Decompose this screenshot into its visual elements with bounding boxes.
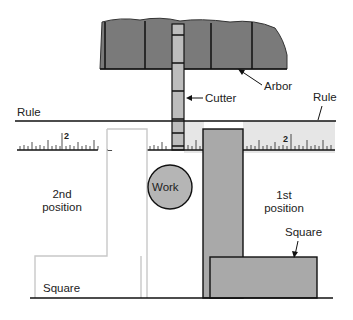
arbor-label: Arbor — [264, 80, 292, 93]
second-position-label: 2nd position — [42, 188, 82, 214]
first-position-line1: 1st — [276, 189, 291, 201]
cutter-label: Cutter — [205, 92, 236, 105]
second-position-line2: position — [42, 201, 82, 213]
rule-label-left: Rule — [17, 106, 41, 119]
square-label-left: Square — [43, 282, 80, 295]
first-position-line2: position — [264, 202, 304, 214]
milling-setup-diagram — [0, 0, 353, 320]
rule-label-right: Rule — [313, 91, 337, 104]
second-position-line1: 2nd — [52, 188, 71, 200]
work-label: Work — [152, 181, 179, 194]
ruler-mark-right: 2 — [283, 133, 288, 146]
ruler-band — [243, 121, 335, 153]
square-label-right: Square — [285, 226, 322, 239]
cutter — [172, 24, 184, 150]
arbor — [100, 18, 287, 69]
first-position-label: 1st position — [264, 189, 304, 215]
square-first-position-base — [210, 257, 317, 298]
ruler-mark-left: 2 — [64, 130, 69, 143]
